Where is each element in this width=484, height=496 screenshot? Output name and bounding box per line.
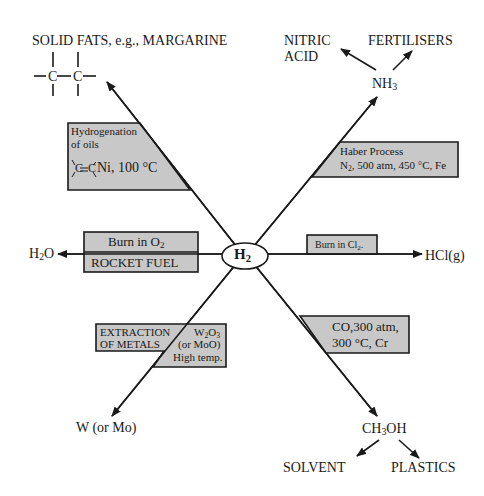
h2-sub: 2 [246, 253, 251, 264]
extraction-line2: OF METALS [100, 338, 160, 351]
h2-label: H2 [234, 247, 251, 262]
product-nitric-acid-1: NITRIC [284, 33, 331, 48]
burn-cl2-label: Burn in Cl2. [315, 238, 363, 251]
n-text: N [340, 159, 348, 171]
cc-left: C [75, 162, 83, 175]
burn-cl2-text: Burn in Cl [315, 239, 357, 250]
product-plastics: PLASTICS [391, 460, 456, 475]
product-hcl: HCl(g) [425, 248, 465, 263]
methanol-conditions-1: CO,300 atm, [332, 319, 399, 334]
burn-cl2-dot: . [361, 239, 364, 250]
oh-text: OH [386, 421, 406, 436]
water-h: H [29, 246, 39, 261]
o-text: O [208, 326, 216, 338]
extraction-moo: (or MoO) [178, 338, 220, 351]
product-solvent: SOLVENT [283, 460, 346, 475]
w-text: W [194, 326, 204, 338]
hydrogenation-conditions: Ni, 100 °C [97, 160, 157, 176]
water-o: O [44, 246, 54, 261]
product-ammonia: NH3 [372, 76, 397, 91]
product-tungsten: W (or Mo) [76, 420, 136, 435]
nh-text: NH [372, 76, 392, 91]
burn-o2-label: Burn in O2 [108, 235, 165, 248]
product-methanol: CH3OH [362, 421, 407, 436]
hydrogenation-line1: Hydrogenation [71, 125, 137, 138]
extraction-temp: High temp. [173, 351, 223, 364]
cc-right: C [88, 162, 96, 175]
c-atom-2: C [73, 69, 82, 84]
hydrogenation-line2: of oils [71, 138, 99, 151]
haber-line2: N2, 500 atm, 450 °C, Fe [340, 159, 446, 172]
product-nitric-acid-2: ACID [284, 49, 318, 64]
rocket-fuel-label: ROCKET FUEL [91, 256, 179, 269]
product-water: H2O [29, 246, 54, 261]
methanol-conditions-2: 300 °C, Cr [332, 335, 388, 350]
product-fertilisers: FERTILISERS [368, 33, 453, 48]
product-solid-fats: SOLID FATS, e.g., MARGARINE [32, 33, 227, 48]
c-atom-1: C [48, 69, 57, 84]
haber-line1: Haber Process [340, 145, 403, 158]
haber-conditions: , 500 atm, 450 °C, Fe [352, 159, 446, 171]
burn-o2-text: Burn in O [108, 234, 160, 249]
burn-o2-sub: 2 [160, 240, 165, 250]
ch-text: CH [362, 421, 381, 436]
h2-text: H [234, 246, 246, 262]
nh-sub: 3 [392, 81, 397, 92]
